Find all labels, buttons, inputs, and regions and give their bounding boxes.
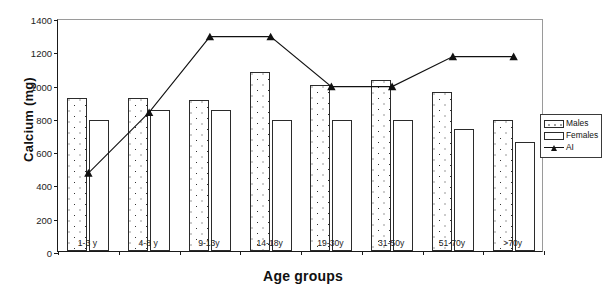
x-tick-label-9-13y: 9-13y <box>198 238 220 248</box>
x-tick-label-51-70y: 51-70y <box>439 238 465 248</box>
males-swatch-icon <box>544 120 564 128</box>
ai-line-series <box>58 20 544 253</box>
x-axis-title: Age groups <box>0 268 606 284</box>
x-tick-mark-7 <box>483 251 484 255</box>
plot-area: 0200400600800100012001400 <box>57 19 543 252</box>
females-swatch-icon <box>544 132 564 140</box>
legend-label-males: Males <box>566 119 588 128</box>
chart-legend: Males Females AI <box>540 114 602 158</box>
x-tick-mark-5 <box>362 251 363 255</box>
x-tick-mark-0 <box>58 251 59 255</box>
y-axis-title: Calcium (mg) <box>21 40 36 200</box>
x-tick-label-31-50y: 31-50y <box>378 238 404 248</box>
x-tick-label-4-8 y: 4-8 y <box>139 238 158 248</box>
legend-item-males: Males <box>544 118 599 129</box>
x-tick-mark-1 <box>119 251 120 255</box>
legend-label-ai: AI <box>566 143 574 152</box>
legend-item-females: Females <box>544 130 599 141</box>
x-tick-mark-3 <box>240 251 241 255</box>
x-tick-mark-2 <box>180 251 181 255</box>
legend-label-females: Females <box>566 131 598 140</box>
x-tick-mark-6 <box>423 251 424 255</box>
x-tick-label-14-18y: 14-18y <box>256 238 282 248</box>
ai-line-marker-icon <box>544 144 564 152</box>
x-tick-mark-4 <box>301 251 302 255</box>
x-tick-label-1-3 y: 1-3 y <box>78 238 97 248</box>
legend-item-ai: AI <box>544 142 599 153</box>
x-tick-label-19-30y: 19-30y <box>317 238 343 248</box>
chart-figure: Calcium (mg) Age groups 0200400600800100… <box>0 0 606 293</box>
x-tick-label->70y: >70y <box>503 238 522 248</box>
x-tick-mark-8 <box>544 251 545 255</box>
ai-polyline <box>88 37 513 174</box>
